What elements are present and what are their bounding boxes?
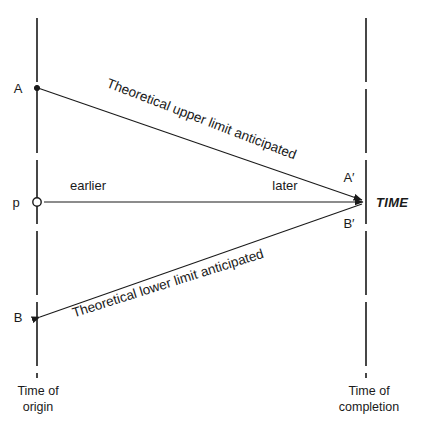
ray-lower-limit <box>40 204 362 317</box>
point-label-p: p <box>12 195 19 210</box>
diagram-svg: A p B A′ B′ TIME earlier later Theoretic… <box>0 0 427 432</box>
point-marker-a <box>34 85 39 90</box>
label-lower-limit: Theoretical lower limit anticipated <box>70 246 265 320</box>
point-marker-p <box>33 198 41 206</box>
caption-time-of-completion: Time of completion <box>320 384 418 415</box>
point-label-a-prime: A′ <box>343 170 355 185</box>
label-earlier: earlier <box>70 178 107 193</box>
label-lower-limit-text: Theoretical lower limit anticipated <box>70 246 265 320</box>
label-later: later <box>272 178 298 193</box>
caption-time-of-origin: Time of origin <box>0 384 76 415</box>
point-label-b: B <box>14 310 23 325</box>
label-upper-limit-text: Theoretical upper limit anticipated <box>105 76 299 163</box>
diagram-canvas: A p B A′ B′ TIME earlier later Theoretic… <box>0 0 427 432</box>
point-label-b-prime: B′ <box>343 216 355 231</box>
label-upper-limit: Theoretical upper limit anticipated <box>105 76 299 163</box>
point-label-a: A <box>14 81 23 96</box>
time-axis-label: TIME <box>376 195 408 210</box>
